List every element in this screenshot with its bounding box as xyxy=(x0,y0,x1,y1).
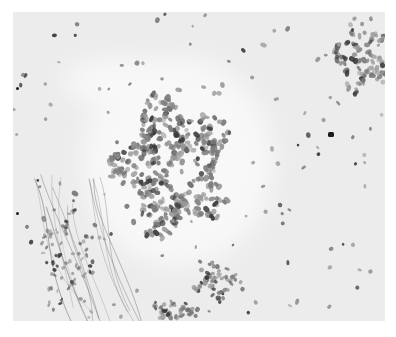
figure-frame xyxy=(0,0,396,337)
micrograph-canvas xyxy=(13,12,385,321)
histology-micrograph xyxy=(13,12,385,321)
